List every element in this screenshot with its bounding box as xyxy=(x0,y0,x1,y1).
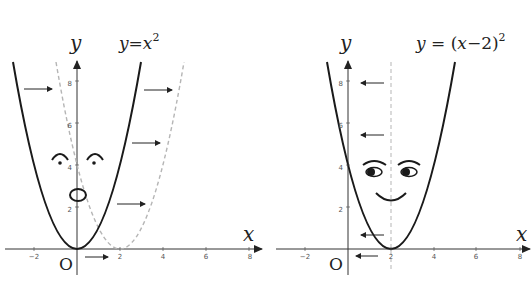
left-equation: y=x2 xyxy=(118,31,159,53)
parabola-translation-diagram: −2 2 4 6 8 2 4 6 8 y x O y=x2 xyxy=(0,0,532,289)
left-x-tick: 4 xyxy=(161,253,166,261)
left-y-tick: 2 xyxy=(68,206,72,214)
right-x-tick: −2 xyxy=(300,253,310,261)
left-x-axis-label: x xyxy=(243,222,254,246)
mouth-o-icon xyxy=(70,189,86,201)
right-y-tick: 2 xyxy=(339,206,343,214)
left-x-tick: 8 xyxy=(248,253,252,261)
pupil-icon xyxy=(367,168,375,176)
left-x-tick: 2 xyxy=(118,253,122,261)
left-y-tick: 6 xyxy=(68,122,73,130)
right-x-tick: 4 xyxy=(432,253,437,261)
right-graph: −2 2 4 6 8 2 4 6 8 y x O y = (x−2)2 xyxy=(276,31,530,275)
left-shift-arrows xyxy=(24,89,172,257)
right-eyebrow-icon xyxy=(398,161,420,165)
right-y-tick: 6 xyxy=(339,122,344,130)
right-y-tick: 4 xyxy=(339,164,344,172)
right-origin-label: O xyxy=(329,254,343,274)
left-y-tick: 4 xyxy=(68,164,73,172)
right-x-tick: 6 xyxy=(474,253,479,261)
left-x-tick: 6 xyxy=(204,253,209,261)
right-y-axis-label: y xyxy=(339,31,352,55)
eye-dot-icon xyxy=(58,161,62,165)
right-y-tick: 8 xyxy=(339,80,343,88)
left-graph: −2 2 4 6 8 2 4 6 8 y x O y=x2 xyxy=(5,31,262,275)
right-x-tick: 2 xyxy=(389,253,393,261)
right-equation: y = (x−2)2 xyxy=(415,31,506,53)
right-x-axis-label: x xyxy=(516,222,527,246)
right-face xyxy=(363,161,420,201)
right-eyebrow-icon xyxy=(87,154,103,160)
left-y-tick: 8 xyxy=(68,80,72,88)
left-origin-label: O xyxy=(59,254,73,274)
right-x-tick: 8 xyxy=(518,253,522,261)
left-eyebrow-icon xyxy=(52,154,68,160)
left-eyebrow-icon xyxy=(363,161,386,165)
eye-dot-icon xyxy=(92,161,96,165)
left-y-axis-label: y xyxy=(69,31,82,55)
left-x-tick: −2 xyxy=(29,253,39,261)
pupil-icon xyxy=(402,168,410,176)
